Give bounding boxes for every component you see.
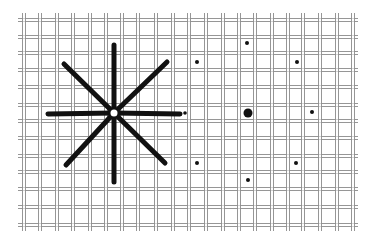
double-line-grid	[18, 13, 358, 231]
grid-vertical-line	[336, 13, 339, 231]
dot-top-left	[195, 60, 199, 64]
dot-bottom	[246, 178, 250, 182]
star-center-hole	[111, 110, 118, 117]
grid-vertical-line	[352, 13, 355, 231]
center-dot	[244, 109, 253, 118]
dot-top-right	[295, 60, 299, 64]
diagram-canvas	[0, 0, 376, 239]
dot-left	[183, 111, 187, 115]
dot-top	[245, 41, 249, 45]
diagram-svg	[0, 0, 376, 239]
grid-vertical-line	[238, 13, 241, 231]
grid-vertical-line	[72, 13, 75, 231]
grid-vertical-line	[137, 13, 140, 231]
dot-bottom-left	[195, 161, 199, 165]
grid-vertical-line	[188, 13, 191, 231]
grid-vertical-line	[39, 13, 42, 231]
grid-vertical-line	[254, 13, 257, 231]
grid-vertical-line	[319, 13, 322, 231]
grid-vertical-line	[23, 13, 26, 231]
grid-vertical-line	[287, 13, 290, 231]
grid-vertical-line	[155, 13, 158, 231]
eight-ray-star	[48, 45, 180, 182]
grid-vertical-line	[89, 13, 92, 231]
grid-vertical-line	[302, 13, 305, 231]
grid-vertical-line	[172, 13, 175, 231]
grid-vertical-line	[222, 13, 225, 231]
star-ray-right	[114, 113, 180, 114]
star-ray-left	[48, 113, 114, 114]
dot-right	[310, 110, 314, 114]
dot-bottom-right	[294, 161, 298, 165]
grid-vertical-line	[271, 13, 274, 231]
grid-vertical-line	[205, 13, 208, 231]
grid-vertical-line	[56, 13, 59, 231]
dot-pattern	[183, 41, 314, 182]
